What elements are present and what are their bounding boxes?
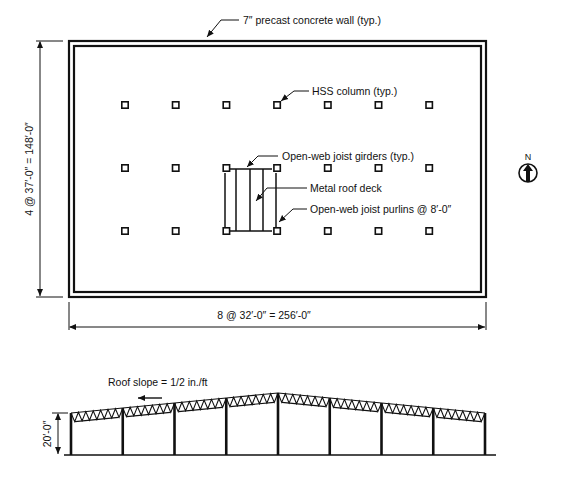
- height-dim-label: 20′-0″: [41, 420, 53, 447]
- north-label: N: [525, 152, 532, 162]
- hss-column: [274, 102, 280, 108]
- north-arrow-icon: N: [519, 152, 537, 182]
- hss-column: [274, 228, 280, 234]
- dim-vertical-label: 4 @ 37′-0″ = 148′-0″: [23, 122, 35, 216]
- hss-column: [325, 102, 331, 108]
- wall-leader: [207, 20, 239, 37]
- girder-label: Open-web joist girders (typ.): [282, 150, 414, 162]
- hss-column: [375, 102, 381, 108]
- hss-column: [173, 165, 179, 171]
- hss-column: [325, 228, 331, 234]
- roof-frame: [71, 393, 485, 455]
- purlin-leader: [279, 209, 307, 222]
- hss-column: [325, 165, 331, 171]
- slope-label: Roof slope = 1/2 in./ft: [108, 376, 208, 388]
- dim-horizontal-label: 8 @ 32′-0″ = 256′-0″: [217, 309, 311, 321]
- hss-column: [122, 102, 128, 108]
- framing-bay: [225, 169, 276, 231]
- hss-column: [223, 165, 229, 171]
- floor-plan: 7″ precast concrete wall (typ.) HSS colu…: [23, 14, 537, 330]
- hss-column: [122, 165, 128, 171]
- hss-column: [426, 165, 432, 171]
- hss-column: [173, 228, 179, 234]
- column-leader: [281, 91, 309, 101]
- purlin-label: Open-web joist purlins @ 8′-0″: [310, 203, 452, 215]
- hss-column: [426, 228, 432, 234]
- building-drawing: 7″ precast concrete wall (typ.) HSS colu…: [0, 0, 564, 478]
- hss-column: [274, 165, 280, 171]
- hss-column: [375, 228, 381, 234]
- deck-label: Metal roof deck: [310, 182, 383, 194]
- hss-column: [426, 102, 432, 108]
- wall-label: 7″ precast concrete wall (typ.): [243, 14, 381, 26]
- hss-column: [223, 102, 229, 108]
- elevation: Roof slope = 1/2 in./ft 20′-0″: [41, 376, 496, 455]
- hss-column: [223, 228, 229, 234]
- hss-column: [173, 102, 179, 108]
- column-label: HSS column (typ.): [312, 85, 397, 97]
- hss-column: [375, 165, 381, 171]
- hss-column: [122, 228, 128, 234]
